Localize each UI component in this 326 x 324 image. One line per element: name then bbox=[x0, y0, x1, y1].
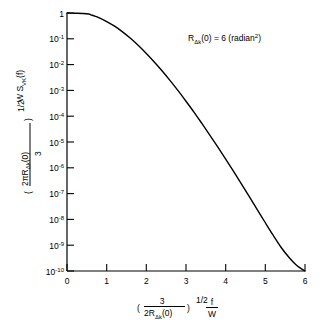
y-tick-label: 10 bbox=[49, 86, 59, 96]
x-axis-den-suffix: (0) bbox=[162, 308, 173, 318]
annotation-label: RΔk(0) = 6 (radian2) bbox=[188, 33, 261, 45]
y-tick-label: 10 bbox=[49, 163, 59, 173]
y-tick-marks bbox=[67, 13, 74, 271]
annotation-rest: (0) = 6 (radian bbox=[201, 33, 255, 43]
y-axis-num-prefix: 2πR bbox=[20, 169, 30, 186]
y-tick-exponent: -8 bbox=[59, 215, 65, 221]
y-axis-label-top: W SVK(f) bbox=[15, 70, 27, 102]
y-tick-labels: 1 10-1 10-2 10-3 10-4 10-5 10-6 10-7 bbox=[46, 9, 65, 277]
y-axis-label-group: W SVK(f) ( ) 1/2 2πRΔk(0) 3 bbox=[15, 70, 43, 194]
x-tick-label: 0 bbox=[65, 276, 70, 286]
x-axis-paren-close: ) bbox=[187, 303, 190, 313]
svg-text:10-8: 10-8 bbox=[49, 215, 64, 225]
y-tick-exponent: -1 bbox=[59, 34, 65, 40]
y-axis-denominator: 3 bbox=[33, 151, 43, 156]
spectrum-curve bbox=[67, 13, 305, 271]
y-tick-exponent: -10 bbox=[55, 267, 64, 273]
y-tick-exponent: -6 bbox=[59, 163, 65, 169]
x-tick-label: 3 bbox=[184, 276, 189, 286]
y-tick-exponent: -5 bbox=[59, 138, 65, 144]
axes-group bbox=[67, 13, 305, 271]
y-tick-exponent: -2 bbox=[59, 60, 65, 66]
x-tick-label: 1 bbox=[104, 276, 109, 286]
annotation-tail: ) bbox=[258, 33, 261, 43]
x-axis-frac-numerator: f bbox=[211, 297, 214, 307]
x-axis-frac-denominator: W bbox=[208, 309, 216, 319]
svg-text:10-10: 10-10 bbox=[46, 267, 65, 277]
y-tick-label: 10 bbox=[49, 189, 59, 199]
svg-text:10-9: 10-9 bbox=[49, 241, 64, 251]
y-axis-top-suffix: (f) bbox=[15, 70, 25, 78]
y-tick-label: 10 bbox=[49, 138, 59, 148]
svg-text:10-1: 10-1 bbox=[49, 34, 64, 44]
x-tick-label: 2 bbox=[144, 276, 149, 286]
svg-text:10-6: 10-6 bbox=[49, 163, 64, 173]
y-tick-exponent: -9 bbox=[59, 241, 65, 247]
svg-text:10-7: 10-7 bbox=[49, 189, 64, 199]
x-tick-labels: 0 1 2 3 4 5 6 bbox=[65, 276, 308, 286]
y-tick-label: 1 bbox=[59, 9, 64, 19]
y-axis-paren-open: ( bbox=[23, 191, 33, 194]
svg-text:10-4: 10-4 bbox=[49, 112, 64, 122]
y-tick-exponent: -7 bbox=[59, 189, 65, 195]
x-tick-label: 6 bbox=[303, 276, 308, 286]
svg-text:10-3: 10-3 bbox=[49, 86, 64, 96]
chart-svg: 1 10-1 10-2 10-3 10-4 10-5 10-6 10-7 bbox=[0, 0, 326, 324]
y-axis-num-suffix: (0) bbox=[20, 152, 30, 163]
x-axis-denominator: 2RΔk(0) bbox=[144, 308, 172, 320]
y-axis-top-text: W S bbox=[15, 86, 25, 102]
spectral-density-chart: 1 10-1 10-2 10-3 10-4 10-5 10-6 10-7 bbox=[0, 0, 326, 324]
y-tick-label: 10 bbox=[49, 112, 59, 122]
y-tick-exponent: -3 bbox=[59, 86, 65, 92]
y-tick-exponent: -4 bbox=[59, 112, 65, 118]
y-axis-top-subscript: VK bbox=[21, 78, 27, 86]
svg-text:10-2: 10-2 bbox=[49, 60, 64, 70]
x-axis-den-prefix: 2R bbox=[144, 308, 155, 318]
y-tick-label: 10 bbox=[46, 267, 56, 277]
y-axis-paren-close: ) bbox=[23, 118, 33, 121]
x-tick-label: 5 bbox=[263, 276, 268, 286]
svg-text:1: 1 bbox=[59, 9, 64, 19]
y-tick-label: 10 bbox=[49, 60, 59, 70]
y-axis-numerator: 2πRΔk(0) bbox=[20, 152, 32, 186]
x-axis-numerator: 3 bbox=[160, 296, 165, 306]
x-axis-paren-open: ( bbox=[137, 303, 140, 313]
x-axis-label-group: ( ) 1/2 3 2RΔk(0) f W bbox=[137, 295, 218, 320]
y-tick-label: 10 bbox=[49, 34, 59, 44]
y-tick-label: 10 bbox=[49, 241, 59, 251]
x-axis-exponent: 1/2 bbox=[196, 295, 208, 305]
y-tick-label: 10 bbox=[49, 215, 59, 225]
x-tick-label: 4 bbox=[223, 276, 228, 286]
y-axis-exponent: 1/2 bbox=[16, 100, 26, 112]
x-tick-marks bbox=[67, 264, 305, 271]
svg-text:10-5: 10-5 bbox=[49, 138, 64, 148]
